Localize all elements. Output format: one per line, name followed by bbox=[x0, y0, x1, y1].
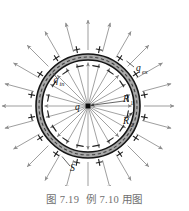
figure-container: q q in q ex R 1 R 2 S 图 7.19 例 7.10 用图 bbox=[0, 0, 189, 211]
field-line-outer bbox=[116, 32, 131, 58]
induced-charge-plus-sign bbox=[141, 92, 147, 98]
conductor-shell-diagram: q q in q ex R 1 R 2 S bbox=[0, 0, 189, 186]
center-point-charge bbox=[86, 104, 91, 109]
induced-charge-plus-sign bbox=[141, 114, 147, 120]
caption-figure-number: 图 7.19 bbox=[46, 191, 79, 206]
induced-charge-plus-sign bbox=[133, 135, 138, 140]
label-inner-induced-charge: q bbox=[54, 75, 59, 85]
caption-figure-title: 例 7.10 用图 bbox=[86, 191, 142, 206]
field-line-outer bbox=[27, 146, 48, 167]
label-gaussian-surface: S bbox=[70, 162, 75, 173]
label-inner-induced-charge-sub: in bbox=[60, 80, 65, 87]
figure-caption: 图 7.19 例 7.10 用图 bbox=[0, 186, 189, 211]
induced-charge-plus-sign bbox=[96, 47, 102, 53]
field-line-outer bbox=[142, 84, 171, 92]
field-line-outer bbox=[136, 134, 162, 149]
gaussian-surface-leader-line bbox=[62, 157, 70, 167]
label-outer-induced-charge: q bbox=[136, 63, 141, 73]
field-line-outer bbox=[142, 120, 171, 128]
induced-charge-plus-sign bbox=[54, 151, 59, 156]
induced-charge-plus-sign bbox=[96, 159, 102, 165]
field-line-outer bbox=[102, 23, 110, 52]
induced-charge-plus-sign bbox=[74, 47, 80, 53]
field-line-outer bbox=[5, 120, 34, 128]
induced-charge-plus-sign bbox=[117, 151, 122, 156]
induced-charge-plus-sign bbox=[38, 72, 43, 77]
label-inner-radius-sub: 1 bbox=[130, 99, 133, 106]
induced-charge-plus-sign bbox=[117, 56, 122, 61]
field-line-outer bbox=[45, 32, 60, 58]
induced-charge-plus-sign bbox=[29, 114, 35, 120]
field-line-outer bbox=[14, 63, 40, 78]
label-outer-radius: R bbox=[122, 115, 129, 126]
label-outer-induced-charge-sub: ex bbox=[142, 68, 148, 75]
field-line-outer bbox=[27, 45, 48, 66]
induced-charge-plus-sign bbox=[38, 135, 43, 140]
field-line-outer bbox=[14, 134, 40, 149]
field-line-outer bbox=[45, 154, 60, 180]
label-outer-radius-sub: 2 bbox=[130, 121, 133, 128]
induced-charge-plus-sign bbox=[54, 56, 59, 61]
field-line-outer bbox=[128, 146, 149, 167]
field-line-outer bbox=[5, 84, 34, 92]
field-line-outer bbox=[116, 154, 131, 180]
induced-charge-plus-sign bbox=[29, 92, 35, 98]
label-center-charge: q bbox=[75, 102, 80, 112]
field-line-outer bbox=[102, 160, 110, 186]
field-line-outer bbox=[66, 23, 74, 52]
label-inner-radius: R bbox=[122, 93, 129, 104]
